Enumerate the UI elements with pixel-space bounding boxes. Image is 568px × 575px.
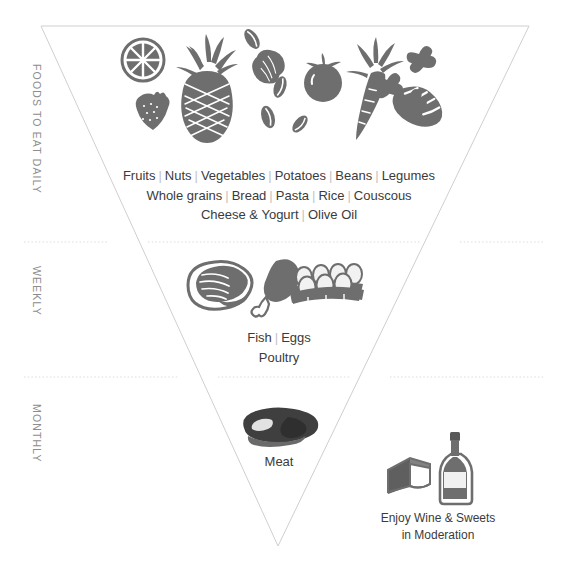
label-separator: | [192, 168, 201, 183]
weekly-food-row: Poultry [184, 348, 374, 368]
food-label: Fish [247, 330, 272, 345]
food-label: Fruits [123, 168, 156, 183]
daily-food-row: Fruits|Nuts|Vegetables|Potatoes|Beans|Le… [84, 166, 474, 186]
food-label: Nuts [165, 168, 192, 183]
rail-label-weekly-text: WEEKLY [32, 266, 43, 316]
salmon-steak-icon [188, 261, 252, 309]
moderation-line-2: in Moderation [368, 527, 508, 544]
tomato-icon [304, 53, 342, 102]
orange-slice-icon [122, 39, 164, 81]
food-label: Potatoes [275, 168, 326, 183]
food-label: Bread [232, 188, 267, 203]
weekly-food-labels: Fish|EggsPoultry [184, 328, 374, 367]
label-separator: | [265, 168, 274, 183]
label-separator: | [222, 188, 231, 203]
daily-food-row: Cheese & Yogurt|Olive Oil [84, 205, 474, 225]
egg-carton-icon [290, 264, 364, 305]
weekly-food-row: Fish|Eggs [184, 328, 374, 348]
food-label: Olive Oil [308, 207, 357, 222]
monthly-food-row: Meat [214, 452, 344, 472]
wine-bottle-icon [440, 432, 472, 504]
food-label: Couscous [354, 188, 412, 203]
pineapple-icon [176, 34, 238, 143]
food-label: Rice [318, 188, 344, 203]
label-separator: | [266, 188, 275, 203]
weekly-icon-group [180, 255, 365, 323]
rail-label-daily-text: FOODS TO EAT DAILY [32, 64, 43, 194]
food-label: Eggs [281, 330, 311, 345]
food-label: Vegetables [201, 168, 265, 183]
label-separator: | [272, 330, 281, 345]
moderation-caption: Enjoy Wine & Sweets in Moderation [368, 510, 508, 544]
label-separator: | [326, 168, 335, 183]
label-separator: | [309, 188, 318, 203]
monthly-icon-group [228, 404, 328, 449]
daily-food-row: Whole grains|Bread|Pasta|Rice|Couscous [84, 186, 474, 206]
cake-slice-icon [388, 458, 430, 494]
food-label: Cheese & Yogurt [201, 207, 299, 222]
food-label: Legumes [382, 168, 435, 183]
strawberry-icon [136, 92, 170, 130]
label-separator: | [372, 168, 381, 183]
label-separator: | [344, 188, 353, 203]
daily-food-labels: Fruits|Nuts|Vegetables|Potatoes|Beans|Le… [84, 166, 474, 225]
food-label: Meat [265, 454, 294, 469]
rail-label-monthly-text: MONTHLY [32, 404, 43, 463]
food-pyramid-diagram: FOODS TO EAT DAILY WEEKLY MONTHLY [0, 0, 568, 575]
daily-icon-group [112, 32, 452, 150]
food-label: Whole grains [146, 188, 222, 203]
label-separator: | [299, 207, 308, 222]
food-label: Poultry [259, 350, 299, 365]
moderation-line-1: Enjoy Wine & Sweets [368, 510, 508, 527]
food-label: Beans [335, 168, 372, 183]
steak-icon [243, 407, 318, 447]
moderation-icon-group [384, 432, 494, 504]
food-label: Pasta [276, 188, 309, 203]
monthly-food-labels: Meat [214, 452, 344, 472]
label-separator: | [155, 168, 164, 183]
